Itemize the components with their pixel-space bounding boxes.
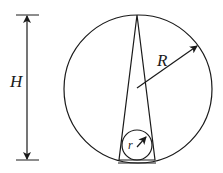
diagram-canvas: H R r	[0, 0, 223, 173]
outer-circle	[64, 15, 212, 163]
height-dimension: H	[8, 15, 39, 160]
small-radius-arrow	[137, 137, 146, 147]
height-label: H	[9, 72, 24, 91]
inner-circle	[122, 130, 152, 160]
small-radius-label: r	[128, 138, 133, 152]
big-radius-label: R	[156, 51, 168, 70]
geometry-figure: H R r	[0, 0, 223, 173]
